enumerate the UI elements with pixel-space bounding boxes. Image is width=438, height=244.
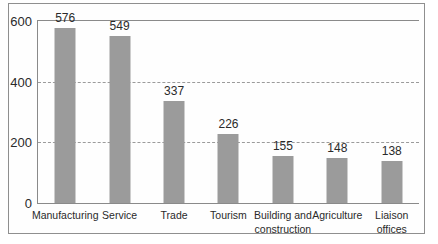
category-label: Tourism xyxy=(210,209,247,223)
bar xyxy=(109,36,130,203)
bar xyxy=(327,158,348,203)
category-label: Agriculture xyxy=(312,209,362,223)
chart-image: 600 400 200 0 576Manufacturing549Service… xyxy=(0,0,438,244)
y-axis-tick-200: 200 xyxy=(0,136,32,149)
bar-value-label: 138 xyxy=(382,145,402,158)
bar-column: 576Manufacturing xyxy=(38,21,92,203)
category-label: Service xyxy=(102,209,137,223)
bar-column: 337Trade xyxy=(147,21,201,203)
y-axis-tick-400: 400 xyxy=(0,75,32,88)
chart-figure: 600 400 200 0 576Manufacturing549Service… xyxy=(8,3,425,234)
bar-columns: 576Manufacturing549Service337Trade226Tou… xyxy=(38,21,419,203)
bar-column: 549Service xyxy=(92,21,146,203)
y-axis-tick-0: 0 xyxy=(0,197,32,210)
bar-value-label: 226 xyxy=(218,118,238,131)
bar-column: 148Agriculture xyxy=(310,21,364,203)
bar-value-label: 337 xyxy=(164,85,184,98)
category-label: Building and construction xyxy=(254,209,312,236)
bar-value-label: 576 xyxy=(55,12,75,25)
bar-value-label: 549 xyxy=(110,20,130,33)
bar xyxy=(164,101,185,203)
bar xyxy=(55,28,76,203)
category-label: Liaison offices xyxy=(375,209,408,236)
bar xyxy=(381,161,402,203)
bar-column: 155Building and construction xyxy=(256,21,310,203)
bar xyxy=(272,156,293,203)
bar-value-label: 155 xyxy=(273,140,293,153)
category-label: Trade xyxy=(161,209,188,223)
bar-value-label: 148 xyxy=(327,142,347,155)
bar xyxy=(218,134,239,203)
bar-column: 226Tourism xyxy=(201,21,255,203)
category-label: Manufacturing xyxy=(32,209,99,223)
y-axis-tick-600: 600 xyxy=(0,15,32,28)
bar-column: 138Liaison offices xyxy=(365,21,419,203)
plot-area: 600 400 200 0 576Manufacturing549Service… xyxy=(37,20,419,204)
